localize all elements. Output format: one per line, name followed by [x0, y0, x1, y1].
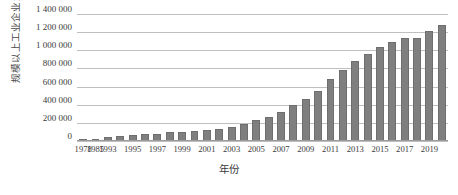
y-axis-tick-label: 1 200 000 — [14, 23, 72, 32]
x-axis-line — [77, 140, 448, 141]
x-axis-title: 年份 — [0, 161, 458, 176]
x-axis-tick-label: 2005 — [248, 143, 265, 155]
x-axis-tick-label: 2015 — [371, 143, 388, 155]
bar — [252, 120, 260, 140]
bar-chart: 规模以上工业企业资产总计/亿元 1 400 0001 200 0001 000 … — [0, 0, 458, 195]
x-axis-tick-label: 2001 — [198, 143, 215, 155]
y-axis-tick-label: 1 400 000 — [14, 5, 72, 14]
bar — [228, 127, 236, 140]
plot-area — [77, 14, 448, 141]
bar — [191, 131, 199, 140]
bar — [178, 132, 186, 140]
bar — [388, 42, 396, 140]
x-axis-tick-label: 1999 — [174, 143, 191, 155]
bar — [203, 130, 211, 140]
y-axis-tick-label: 600 000 — [14, 78, 72, 87]
bar — [327, 79, 335, 140]
bar — [351, 61, 359, 140]
x-axis-tick-labels: 1978198519931995199719992001200320052007… — [77, 143, 448, 157]
bar — [215, 129, 223, 140]
y-axis-tick-label: 800 000 — [14, 59, 72, 68]
x-axis-tick-label: 2007 — [272, 143, 289, 155]
bar — [339, 70, 347, 140]
bar-series — [77, 14, 448, 141]
bar — [314, 91, 322, 140]
x-axis-tick-label: 2009 — [297, 143, 314, 155]
bar — [240, 124, 248, 140]
bar — [289, 105, 297, 140]
gridline — [77, 141, 448, 142]
x-axis-tick-label: 2011 — [322, 143, 339, 155]
bar — [438, 25, 446, 140]
x-axis-tick-label: 1995 — [124, 143, 141, 155]
bar — [277, 112, 285, 140]
x-axis-tick-label: 2013 — [347, 143, 364, 155]
x-axis-tick-label: 1997 — [149, 143, 166, 155]
bar — [413, 38, 421, 141]
bar — [166, 132, 174, 140]
bar — [376, 47, 384, 140]
x-axis-tick-label: 2017 — [396, 143, 413, 155]
y-axis-tick-label: 0 — [14, 132, 72, 141]
bar — [302, 99, 310, 140]
bar — [265, 117, 273, 140]
bar — [401, 38, 409, 140]
y-axis-tick-label: 400 000 — [14, 96, 72, 105]
x-axis-tick-label: 1993 — [99, 143, 116, 155]
bar — [425, 31, 433, 140]
y-axis-tick-labels: 1 400 0001 200 0001 000 000800 000600 00… — [16, 9, 74, 141]
bar — [364, 54, 372, 140]
y-axis-tick-label: 1 000 000 — [14, 41, 72, 50]
x-axis-tick-label: 2019 — [421, 143, 438, 155]
x-axis-tick-label: 2003 — [223, 143, 240, 155]
y-axis-tick-label: 200 000 — [14, 114, 72, 123]
